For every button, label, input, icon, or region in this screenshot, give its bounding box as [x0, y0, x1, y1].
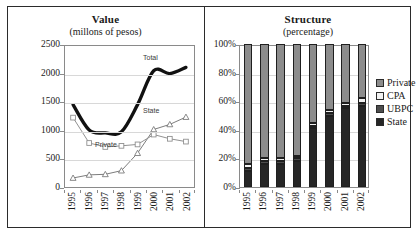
- structure-plot-area: [239, 45, 369, 188]
- bar-segment-private: [293, 44, 301, 156]
- x-tick-label: 2001: [340, 192, 350, 211]
- bar-segment-private: [309, 44, 317, 123]
- x-tick-label: 2000: [149, 192, 159, 211]
- data-point-marker: [167, 121, 173, 126]
- x-tick-label: 1998: [116, 192, 126, 211]
- x-tick-label: 1996: [258, 192, 268, 211]
- bar-segment-ubpc: [244, 168, 252, 171]
- data-point-marker: [119, 143, 124, 148]
- legend-label: CPA: [387, 91, 406, 101]
- x-tick-mark: [368, 190, 369, 193]
- bar-segment-cpa: [325, 110, 333, 113]
- x-tick-mark: [113, 190, 114, 193]
- x-tick-label: 2001: [165, 192, 175, 211]
- y-tick-label: 100%: [214, 40, 236, 50]
- bar-group: [260, 46, 268, 187]
- legend-swatch-icon: [376, 105, 384, 113]
- y-tick-label: 80%: [219, 69, 236, 79]
- legend-item-state[interactable]: State: [376, 115, 418, 128]
- y-tick-label: 40%: [219, 126, 236, 136]
- panel-value-title: Value: [7, 13, 204, 26]
- series-state: [70, 114, 189, 180]
- bar-segment-state: [260, 164, 268, 187]
- structure-y-axis: 0%20%40%60%80%100%: [205, 45, 236, 188]
- x-tick-mark: [353, 190, 354, 193]
- gridline: [65, 160, 194, 161]
- x-tick-label: 1995: [242, 192, 252, 211]
- bar-segment-cpa: [244, 164, 252, 168]
- legend-label: Private: [387, 78, 415, 88]
- bar-segment-private: [358, 44, 366, 98]
- bar-group: [309, 46, 317, 187]
- legend-item-ubpc[interactable]: UBPC: [376, 102, 418, 115]
- y-tick-mark: [60, 188, 64, 189]
- data-point-marker: [135, 142, 140, 147]
- x-tick-label: 1996: [84, 192, 94, 211]
- bar-segment-cpa: [293, 156, 301, 159]
- structure-legend: PrivateCPAUBPCState: [376, 76, 418, 128]
- x-tick-label: 2002: [356, 192, 366, 211]
- y-tick-label: 2000: [41, 69, 60, 79]
- series-annotation-total: Total: [143, 54, 158, 61]
- x-tick-label: 1998: [291, 192, 301, 211]
- structure-x-axis: 19951996199719981999200020012002: [239, 190, 369, 240]
- legend-item-cpa[interactable]: CPA: [376, 89, 418, 102]
- bar-segment-state: [293, 161, 301, 187]
- legend-swatch-icon: [376, 79, 384, 87]
- data-point-marker: [151, 132, 156, 137]
- bar-segment-ubpc: [309, 126, 317, 129]
- panel-structure: Structure (percentage) 0%20%40%60%80%100…: [205, 6, 411, 228]
- bar-segment-cpa: [276, 158, 284, 161]
- x-tick-label: 1999: [133, 192, 143, 211]
- panel-structure-title: Structure: [205, 13, 411, 26]
- x-tick-mark: [194, 190, 195, 193]
- bar-segment-cpa: [341, 103, 349, 106]
- value-y-axis: 05001000150020002500: [15, 45, 60, 188]
- x-tick-mark: [130, 190, 131, 193]
- bar-segment-cpa: [309, 123, 317, 126]
- gridline: [65, 132, 194, 133]
- x-tick-label: 1997: [275, 192, 285, 211]
- bar-group: [341, 46, 349, 187]
- data-point-marker: [87, 141, 92, 146]
- bar-group: [276, 46, 284, 187]
- x-tick-mark: [80, 190, 81, 193]
- bar-segment-state: [244, 171, 252, 187]
- bar-segment-private: [244, 44, 252, 164]
- bar-segment-state: [325, 116, 333, 188]
- x-tick-label: 1999: [307, 192, 317, 211]
- y-tick-mark: [236, 188, 240, 189]
- bar-group: [325, 46, 333, 187]
- y-tick-label: 60%: [219, 97, 236, 107]
- bar-segment-ubpc: [325, 113, 333, 116]
- x-tick-mark: [97, 190, 98, 193]
- bar-segment-ubpc: [358, 103, 366, 106]
- bar-segment-private: [260, 44, 268, 158]
- bar-group: [293, 46, 301, 187]
- bar-segment-ubpc: [341, 106, 349, 109]
- x-tick-mark: [179, 190, 180, 193]
- bar-group: [358, 46, 366, 187]
- y-tick-label: 20%: [219, 155, 236, 165]
- x-tick-mark: [64, 190, 65, 193]
- bar-segment-private: [276, 44, 284, 158]
- bar-group: [244, 46, 252, 187]
- y-tick-label: 2500: [41, 40, 60, 50]
- bar-segment-ubpc: [260, 161, 268, 164]
- legend-label: UBPC: [387, 104, 413, 114]
- bar-segment-state: [309, 128, 317, 187]
- x-tick-mark: [337, 190, 338, 193]
- bar-segment-cpa: [260, 158, 268, 161]
- data-point-marker: [184, 139, 189, 144]
- legend-item-private[interactable]: Private: [376, 76, 418, 89]
- data-point-marker: [71, 115, 76, 120]
- figure-container: Value (millons of pesos) 050010001500200…: [0, 0, 418, 240]
- x-tick-label: 1997: [100, 192, 110, 211]
- bar-segment-ubpc: [293, 158, 301, 161]
- x-tick-mark: [320, 190, 321, 193]
- bar-segment-cpa: [358, 98, 366, 102]
- panel-structure-subtitle: (percentage): [205, 26, 411, 38]
- panel-value-subtitle: (millons of pesos): [7, 26, 204, 38]
- bar-segment-state: [276, 164, 284, 187]
- x-tick-mark: [255, 190, 256, 193]
